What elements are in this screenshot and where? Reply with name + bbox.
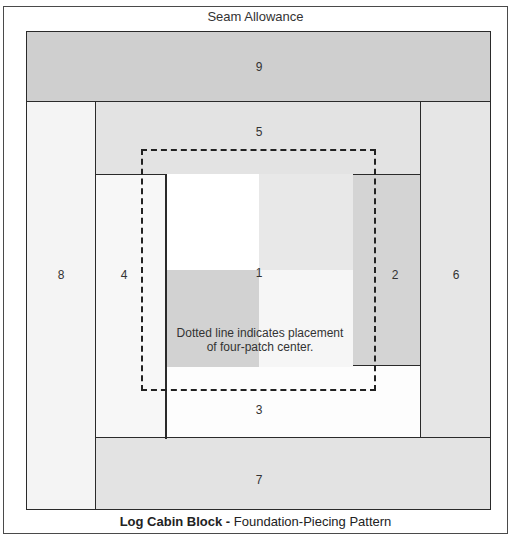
piece-8-number: 8 — [58, 268, 65, 282]
piece-4 — [95, 174, 167, 439]
diagram-caption: Log Cabin Block - Foundation-Piecing Pat… — [0, 514, 511, 529]
placement-note: Dotted line indicates placement of four-… — [165, 326, 355, 354]
seam-line — [165, 174, 167, 439]
piece-8 — [26, 101, 97, 510]
caption-title: Log Cabin Block - — [120, 514, 234, 529]
note-line-1: Dotted line indicates placement — [165, 326, 355, 340]
piece-3-number: 3 — [256, 403, 263, 417]
piece-6-number: 6 — [453, 268, 460, 282]
piece-2-number: 2 — [392, 268, 399, 282]
piece-4-number: 4 — [121, 268, 128, 282]
piece-2 — [351, 174, 421, 367]
piece-7-number: 7 — [256, 473, 263, 487]
seam-allowance-label: Seam Allowance — [0, 9, 511, 24]
four-patch-top-right — [259, 174, 353, 270]
piece-1-number: 1 — [256, 266, 263, 280]
piece-7 — [95, 437, 491, 510]
piece-9-number: 9 — [256, 60, 263, 74]
note-line-2: of four-patch center. — [165, 340, 355, 354]
piece-3 — [165, 365, 421, 439]
piece-5-number: 5 — [256, 125, 263, 139]
caption-subtitle: Foundation-Piecing Pattern — [234, 514, 392, 529]
four-patch-top-left — [165, 174, 259, 270]
